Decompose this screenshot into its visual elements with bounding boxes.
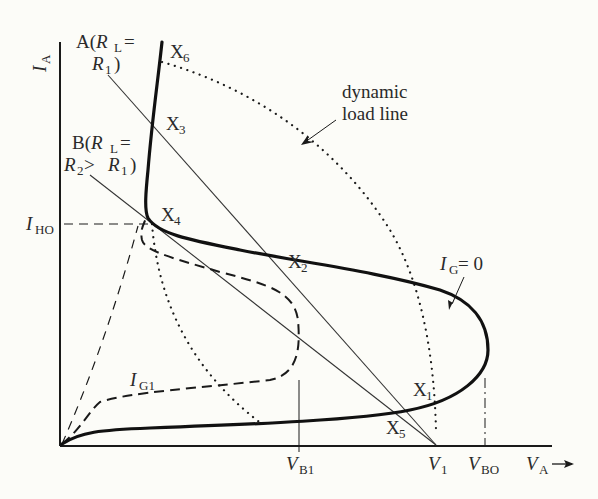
x-axis-label-main: V [526, 453, 540, 474]
dynamic-pointer [308, 120, 336, 140]
x3-sub: 3 [179, 122, 186, 137]
x5-sub: 5 [399, 426, 406, 441]
x6-sub: 6 [183, 50, 190, 65]
dynamic-label-line2: load line [342, 103, 408, 124]
svg-text:B(R: B(R [72, 132, 103, 154]
load-line-a [108, 75, 436, 445]
svg-text:A(R: A(R [76, 31, 108, 53]
b-suffix: = [120, 132, 131, 153]
v1-main: V [428, 453, 442, 474]
vb1-label: V B1 [286, 453, 314, 477]
a-prefix: A( [76, 31, 96, 53]
b-gt: > [84, 154, 95, 175]
b-var: R [90, 132, 103, 153]
x2-sub: 2 [301, 260, 308, 275]
x1-main: X [413, 379, 427, 400]
load-line-b [90, 175, 436, 445]
ig1-var: I [129, 369, 138, 390]
a-r1-var: R [91, 53, 104, 74]
ig0-sub: G [449, 262, 458, 277]
vb1-sub: B1 [299, 462, 314, 477]
ig1-label: I G1 [129, 369, 155, 393]
x6-main: X [170, 41, 184, 62]
curve-ig1 [62, 218, 299, 444]
x4-sub: 4 [174, 213, 181, 228]
vb1-main: V [286, 453, 300, 474]
vbo-sub: BO [481, 462, 499, 477]
b-r1-var: R [107, 154, 120, 175]
point-x6-label: X 6 [170, 41, 190, 65]
ig1-sub: G1 [139, 378, 155, 393]
b-prefix: B( [72, 132, 91, 154]
load-line-a-label: A(R L = R 1 ) [76, 31, 135, 77]
b-r1-suffix: ) [130, 154, 136, 176]
thyristor-characteristic-diagram: I A V A I HO A(R L = R 1 [0, 0, 598, 499]
x1-sub: 1 [426, 388, 433, 403]
a-r1-suffix: ) [114, 53, 120, 75]
ig0-var: I [439, 253, 448, 274]
y-axis-label-sub: A [38, 54, 53, 64]
point-x5-label: X 5 [386, 417, 406, 441]
b-r1-sub: 1 [121, 163, 128, 178]
vbo-main: V [468, 453, 482, 474]
b-r2-sub: 2 [77, 163, 84, 178]
x3-main: X [166, 113, 180, 134]
iho-label-main: I [25, 213, 34, 234]
x-axis-label-sub: A [539, 462, 549, 477]
point-x4-label: X 4 [161, 204, 181, 228]
ig0-label: I G = 0 [439, 253, 483, 277]
point-x3-label: X 3 [166, 113, 186, 137]
x-axis-label: V A [526, 453, 574, 477]
ihо-tick: I HO [25, 213, 152, 237]
a-var: R [95, 31, 108, 52]
iho-label-sub: HO [35, 222, 54, 237]
x5-main: X [386, 417, 400, 438]
x2-main: X [288, 251, 302, 272]
dynamic-label-line1: dynamic [342, 81, 407, 102]
dashed-origin-to-x4 [62, 226, 138, 444]
dynamic-load-line-lower [152, 224, 262, 424]
a-r1-sub: 1 [105, 62, 112, 77]
y-axis-label: I A [29, 54, 53, 73]
x4-main: X [161, 204, 175, 225]
point-x1-label: X 1 [413, 379, 433, 403]
point-x2-label: X 2 [288, 251, 308, 275]
v1-sub: 1 [441, 462, 448, 477]
a-suffix: = [124, 31, 135, 52]
load-line-b-label: B(R L = R 2 > R 1 ) [63, 132, 136, 178]
ig0-suffix: = 0 [458, 253, 483, 274]
b-r2-var: R [63, 154, 76, 175]
v1-label: V 1 [428, 453, 448, 477]
vbo-label: V BO [468, 453, 499, 477]
y-axis-label-main: I [29, 64, 50, 73]
